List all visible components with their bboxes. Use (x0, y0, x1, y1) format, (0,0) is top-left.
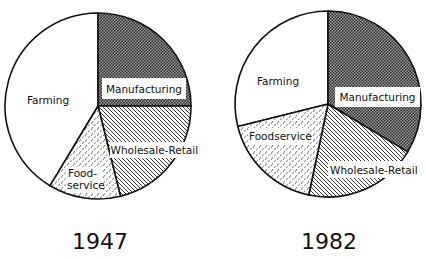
label-1947-manufacturing: Manufacturing (106, 83, 182, 95)
year-label-1982: 1982 (301, 229, 357, 254)
label-1947-food-line1: Food- (68, 167, 97, 179)
year-label-1947: 1947 (72, 229, 128, 254)
label-1947-food-line2: service (67, 179, 105, 191)
label-1982-manufacturing: Manufacturing (339, 91, 415, 103)
pie-1947: Manufacturing Farming Wholesale-Retail F… (5, 13, 214, 199)
label-1947-farming: Farming (27, 94, 69, 106)
label-1947-wholesale-retail: Wholesale-Retail (111, 144, 199, 156)
label-1982-wholesale-retail: Wholesale-Retail (330, 164, 418, 176)
pie-1982: Farming Manufacturing Foodservice Wholes… (235, 11, 425, 197)
pie-chart-comparison: Manufacturing Farming Wholesale-Retail F… (0, 0, 426, 259)
label-1982-foodservice: Foodservice (249, 130, 312, 142)
label-1982-farming: Farming (257, 75, 299, 87)
